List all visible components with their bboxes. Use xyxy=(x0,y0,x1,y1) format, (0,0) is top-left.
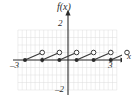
function-graph-figure: f(x) 2 –2 –3 3 x xyxy=(0,0,136,101)
x-tick-label-negative-3: –3 xyxy=(10,61,19,70)
open-point xyxy=(109,50,114,55)
closed-point xyxy=(57,58,61,62)
closed-point xyxy=(23,58,27,62)
closed-point xyxy=(92,58,96,62)
closed-point xyxy=(75,58,79,62)
y-tick-label-negative-2: –2 xyxy=(55,85,64,94)
open-point xyxy=(40,50,45,55)
open-point xyxy=(91,50,96,55)
x-tick-label-positive-3: 3 xyxy=(108,61,113,70)
closed-point xyxy=(40,58,44,62)
open-point xyxy=(57,50,62,55)
y-tick-label-positive-2: 2 xyxy=(58,19,63,28)
graph-canvas xyxy=(0,0,136,101)
function-label: f(x) xyxy=(57,2,71,12)
x-axis-label: x xyxy=(127,52,131,61)
open-point xyxy=(74,50,79,55)
